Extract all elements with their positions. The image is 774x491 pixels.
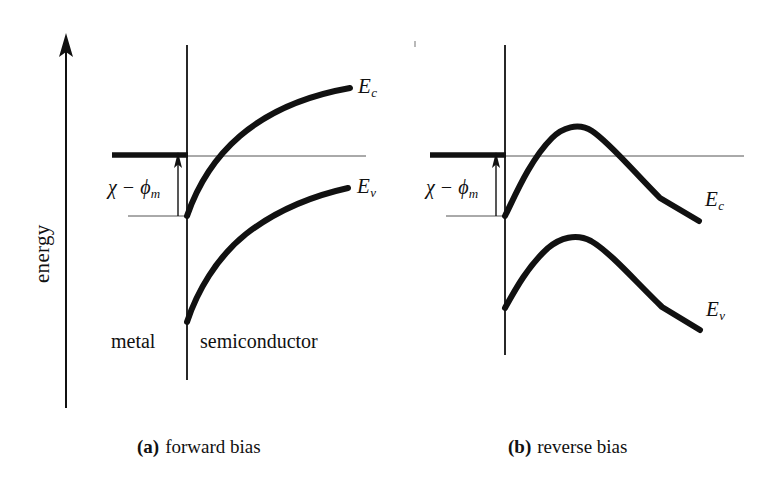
ec-subscript-a: c (371, 85, 377, 100)
ev-symbol-b: E (706, 297, 719, 321)
valence-band-label-a: Ev (357, 176, 376, 199)
valence-band-curve-a (187, 188, 348, 322)
ev-subscript-a: v (370, 185, 376, 200)
barrier-arrow-b (492, 152, 500, 216)
phi-subscript-a: m (151, 186, 160, 201)
conduction-band-label-b: Ec (705, 189, 724, 212)
energy-axis (59, 33, 73, 408)
minus-symbol-b: − (435, 176, 459, 198)
phi-symbol-b: ϕ (458, 176, 468, 198)
barrier-arrow-a (174, 152, 182, 216)
conduction-band-label-a: Ec (358, 76, 377, 99)
minus-symbol-a: − (117, 176, 141, 198)
ev-symbol-a: E (357, 174, 370, 198)
band-diagram-canvas (0, 0, 774, 491)
caption-b-tag: (b) (508, 436, 531, 457)
band-diagram-figure: energy χ−ϕm Ec Ev metal semiconductor χ−… (0, 0, 774, 491)
phi-symbol-a: ϕ (140, 176, 150, 198)
valence-band-curve-b (505, 237, 700, 330)
caption-a: (a)forward bias (137, 437, 261, 456)
region-label-semiconductor: semiconductor (200, 331, 318, 351)
caption-b: (b)reverse bias (508, 437, 627, 456)
phi-subscript-b: m (469, 186, 478, 201)
chi-symbol-a: χ (108, 176, 117, 198)
ec-symbol-a: E (358, 74, 371, 98)
caption-b-text: reverse bias (531, 436, 627, 457)
caption-a-tag: (a) (137, 436, 159, 457)
chi-symbol-b: χ (426, 176, 435, 198)
region-label-metal: metal (111, 331, 155, 351)
conduction-band-curve-b (505, 127, 699, 221)
caption-a-text: forward bias (159, 436, 261, 457)
ec-subscript-b: c (718, 198, 724, 213)
barrier-label-b: χ−ϕm (426, 177, 478, 200)
barrier-label-a: χ−ϕm (108, 177, 160, 200)
scan-speck (414, 41, 416, 47)
ev-subscript-b: v (719, 308, 725, 323)
energy-axis-label: energy (32, 224, 53, 283)
ec-symbol-b: E (705, 187, 718, 211)
valence-band-label-b: Ev (706, 299, 725, 322)
